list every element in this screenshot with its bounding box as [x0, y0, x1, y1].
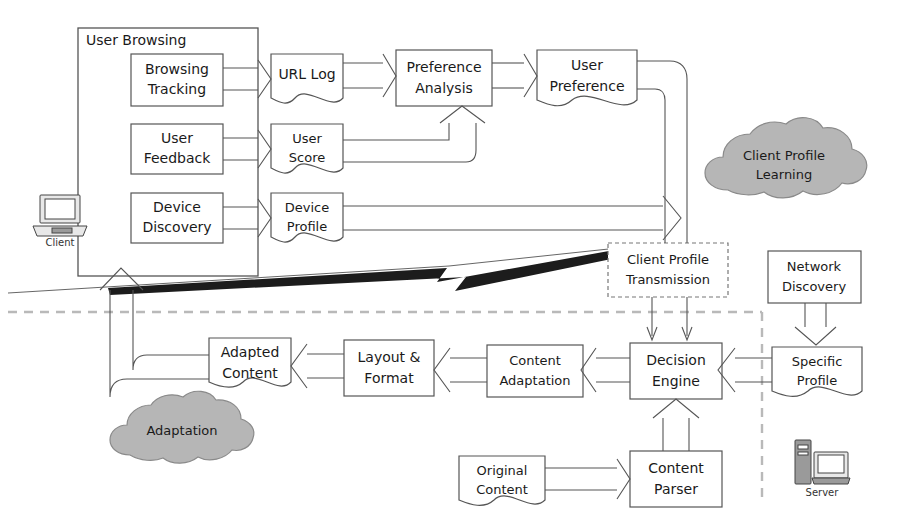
- node-user-preference-line1: User: [571, 57, 603, 73]
- node-device-profile-line2: Profile: [287, 219, 327, 234]
- edge-specific-profile-to-decision-engine: [718, 348, 772, 392]
- server-icon: [795, 440, 850, 484]
- node-browsing-tracking-line2: Tracking: [147, 81, 206, 97]
- cloud-client-profile-learning-line2: Learning: [756, 167, 812, 182]
- server-icon-label: Server: [806, 487, 840, 498]
- node-decision-engine-line1: Decision: [646, 352, 706, 368]
- client-icon: [33, 195, 87, 236]
- edge-network-discovery-to-specific-profile: [795, 303, 836, 345]
- node-content-parser-line1: Content: [648, 460, 704, 476]
- edge-content-adaptation-to-layout-format: [434, 348, 487, 392]
- node-browsing-tracking-line1: Browsing: [145, 61, 209, 77]
- edge-url-log-to-preference-analysis: [343, 54, 396, 97]
- node-original-content-line1: Original: [477, 463, 528, 478]
- node-layout-format-line1: Layout &: [358, 349, 421, 365]
- node-adapted-content-line2: Content: [222, 365, 278, 381]
- node-decision-engine-line2: Engine: [652, 373, 700, 389]
- node-layout-format-line2: Format: [364, 370, 414, 386]
- node-preference-analysis-line1: Preference: [406, 59, 481, 75]
- cloud-client-profile-learning-line1: Client Profile: [743, 148, 825, 163]
- node-network-discovery-line1: Network: [787, 259, 842, 274]
- node-specific-profile-line1: Specific: [792, 354, 843, 369]
- node-specific-profile-line2: Profile: [797, 373, 837, 388]
- edge-device-discovery-to-device-profile: [223, 199, 271, 237]
- node-user-feedback-line1: User: [161, 130, 193, 146]
- node-device-profile-line1: Device: [285, 200, 329, 215]
- edge-user-score-to-preference-analysis: [343, 106, 485, 162]
- node-user-preference-line2: Preference: [549, 78, 624, 94]
- client-icon-label: Client: [46, 237, 75, 248]
- node-device-discovery-line2: Discovery: [142, 219, 211, 235]
- cloud-adaptation-line1: Adaptation: [146, 423, 217, 438]
- node-content-parser-line2: Parser: [654, 481, 698, 497]
- edge-client-profile-transmission-to-decision-engine: [647, 297, 692, 340]
- group-user-browsing-label: User Browsing: [86, 32, 186, 48]
- edge-content-parser-to-decision-engine: [653, 399, 699, 451]
- wireless-link-lightning-bolt: [8, 248, 626, 295]
- node-user-score-line1: User: [292, 131, 322, 146]
- edge-original-content-to-content-parser: [545, 459, 630, 499]
- edge-decision-engine-to-content-adaptation: [581, 348, 630, 392]
- node-content-adaptation-line2: Adaptation: [499, 373, 570, 388]
- node-original-content-line2: Content: [476, 482, 528, 497]
- node-preference-analysis-line2: Analysis: [415, 80, 473, 96]
- edge-browsing-tracking-to-url-log: [223, 60, 271, 98]
- node-url-log-line1: URL Log: [278, 66, 335, 82]
- node-content-adaptation-line1: Content: [509, 353, 561, 368]
- edge-user-feedback-to-user-score: [223, 130, 271, 168]
- node-user-score-line2: Score: [289, 150, 325, 165]
- edge-preference-analysis-to-user-preference: [492, 54, 537, 97]
- node-network-discovery-line2: Discovery: [782, 279, 847, 294]
- node-client-profile-transmission-line2: Transmission: [625, 272, 710, 287]
- edge-device-profile-to-client-profile-transmission: [343, 196, 681, 240]
- diagram-canvas: User Browsing Browsing Tracking User Fee…: [0, 0, 899, 525]
- node-client-profile-transmission-line1: Client Profile: [627, 252, 709, 267]
- node-adapted-content-line1: Adapted: [221, 344, 280, 360]
- node-device-discovery-line1: Device: [153, 199, 201, 215]
- edge-layout-format-to-adapted-content: [291, 344, 344, 388]
- node-user-feedback-line2: Feedback: [144, 150, 212, 166]
